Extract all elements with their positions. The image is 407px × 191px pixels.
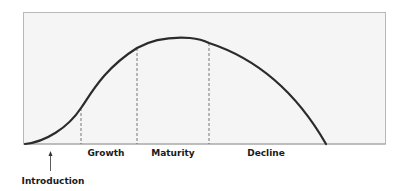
plot-area <box>24 13 386 145</box>
stage-label-growth: Growth <box>87 148 124 158</box>
product-life-cycle-diagram: Growth Maturity Decline Introduction <box>0 0 407 191</box>
introduction-arrow-icon <box>49 151 53 156</box>
stage-label-decline: Decline <box>247 148 285 158</box>
stage-label-maturity: Maturity <box>151 148 195 158</box>
stage-label-introduction: Introduction <box>22 176 85 186</box>
